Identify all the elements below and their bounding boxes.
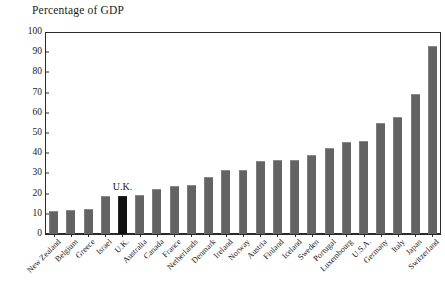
y-axis-tick-label: 90 (0, 47, 42, 57)
x-axis-tick-label: Israel (95, 238, 114, 257)
bar-slot (290, 32, 299, 234)
x-axis-tick-label: Italy (390, 238, 406, 254)
bar-switzerland[interactable] (428, 46, 437, 234)
bar-slot (393, 32, 402, 234)
bar-slot (273, 32, 282, 234)
bar-slot (66, 32, 75, 234)
x-axis-tick-mark (88, 234, 89, 237)
y-axis-tick-label: 100 (0, 27, 42, 37)
x-axis-tick-mark (226, 234, 227, 237)
bar-israel[interactable] (101, 196, 110, 234)
bar-canada[interactable] (152, 189, 161, 234)
chart-title: Percentage of GDP (32, 4, 124, 16)
y-axis-tick-label: 30 (0, 169, 42, 179)
bar-iceland[interactable] (290, 160, 299, 234)
x-axis-tick-mark (398, 234, 399, 237)
bar-slot (342, 32, 351, 234)
bar-slot (359, 32, 368, 234)
bar-finland[interactable] (273, 160, 282, 234)
bar-chart-figure: Percentage of GDP 0102030405060708090100… (0, 0, 445, 303)
bars-layer (45, 32, 441, 234)
x-axis-tick-mark (54, 234, 55, 237)
bar-luxembourg[interactable] (342, 142, 351, 234)
y-axis-tick-label: 0 (0, 229, 42, 239)
bar-slot (428, 32, 437, 234)
y-axis-tick-label: 10 (0, 209, 42, 219)
x-axis-tick-mark (140, 234, 141, 237)
x-axis-tick-mark (157, 234, 158, 237)
bar-slot (101, 32, 110, 234)
bar-slot (239, 32, 248, 234)
y-axis-tick-label: 60 (0, 108, 42, 118)
bar-italy[interactable] (393, 117, 402, 234)
bar-japan[interactable] (411, 94, 420, 234)
bar-slot (49, 32, 58, 234)
bar-portugal[interactable] (325, 148, 334, 234)
y-axis-tick-label: 40 (0, 148, 42, 158)
x-axis-tick-mark (329, 234, 330, 237)
bar-greece[interactable] (84, 209, 93, 234)
x-axis-tick-mark (312, 234, 313, 237)
bar-germany[interactable] (376, 123, 385, 234)
x-axis-tick-mark (415, 234, 416, 237)
bar-u-s-a[interactable] (359, 141, 368, 234)
x-axis-tick-mark (174, 234, 175, 237)
bar-slot (376, 32, 385, 234)
y-axis-tick-label: 50 (0, 128, 42, 138)
y-axis-tick-label: 80 (0, 68, 42, 78)
bar-slot (152, 32, 161, 234)
bar-slot (84, 32, 93, 234)
bar-sweden[interactable] (307, 155, 316, 234)
bar-slot (411, 32, 420, 234)
bar-austria[interactable] (256, 161, 265, 234)
uk-highlight-annotation: U.K. (113, 182, 132, 192)
bar-slot (170, 32, 179, 234)
bar-slot (204, 32, 213, 234)
bar-australia[interactable] (135, 195, 144, 234)
bar-slot (187, 32, 196, 234)
bar-denmark[interactable] (204, 177, 213, 234)
bar-norway[interactable] (239, 170, 248, 234)
x-axis-tick-mark (243, 234, 244, 237)
x-axis-tick-mark (209, 234, 210, 237)
bar-slot (221, 32, 230, 234)
bar-belgium[interactable] (66, 210, 75, 234)
bar-slot (135, 32, 144, 234)
x-axis-tick-mark (364, 234, 365, 237)
x-axis-tick-mark (71, 234, 72, 237)
bar-slot (118, 32, 127, 234)
bar-slot (325, 32, 334, 234)
bar-ireland[interactable] (221, 170, 230, 234)
bar-u-k[interactable] (118, 196, 127, 234)
bar-france[interactable] (170, 186, 179, 234)
bar-new-zealand[interactable] (49, 211, 58, 234)
x-axis-tick-mark (295, 234, 296, 237)
bar-netherlands[interactable] (187, 185, 196, 234)
bar-slot (256, 32, 265, 234)
bar-slot (307, 32, 316, 234)
x-axis-tick-mark (381, 234, 382, 237)
y-axis-tick-label: 20 (0, 189, 42, 199)
y-axis-tick-label: 70 (0, 88, 42, 98)
